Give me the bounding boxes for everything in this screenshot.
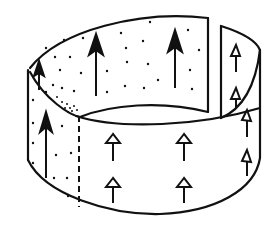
top-rim-back	[30, 16, 208, 68]
top-rim-right	[221, 26, 260, 50]
inner-rim	[30, 72, 208, 117]
bottom-rim	[28, 158, 260, 214]
inner-rim-right	[221, 50, 260, 118]
cylinder-band-diagram	[0, 0, 273, 226]
diagram-canvas	[0, 0, 273, 226]
